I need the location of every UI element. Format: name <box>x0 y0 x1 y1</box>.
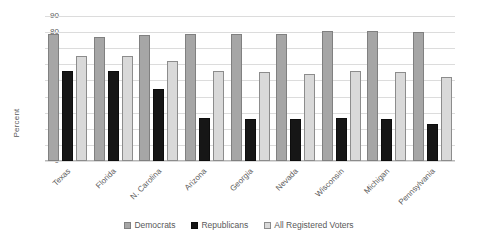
x-axis-tick-slot: N. Carolina <box>136 163 182 215</box>
legend-label: Republicans <box>201 220 248 230</box>
bar-group <box>273 16 319 161</box>
bar-republicans[interactable] <box>108 71 119 161</box>
bar-republicans[interactable] <box>336 118 347 162</box>
bar-groups <box>45 16 455 161</box>
bar-republicans[interactable] <box>381 119 392 161</box>
bar-group <box>318 16 364 161</box>
bar-all-registered-voters[interactable] <box>122 56 133 161</box>
x-axis-tick-label: Arizona <box>184 167 209 192</box>
bar-democrats[interactable] <box>322 31 333 162</box>
bar-group <box>45 16 91 161</box>
bar-democrats[interactable] <box>231 34 242 161</box>
gridline <box>45 161 455 162</box>
bar-all-registered-voters[interactable] <box>259 72 270 161</box>
x-axis-tick-labels: TexasFloridaN. CarolinaArizonaGeorgiaNev… <box>45 163 455 215</box>
x-axis-tick-slot: Georgia <box>227 163 273 215</box>
bar-all-registered-voters[interactable] <box>395 72 406 161</box>
bar-republicans[interactable] <box>290 119 301 161</box>
x-axis-tick-label: Georgia <box>228 167 254 193</box>
bar-democrats[interactable] <box>276 34 287 161</box>
legend-swatch-icon <box>191 222 198 229</box>
bar-all-registered-voters[interactable] <box>213 71 224 161</box>
bar-group <box>91 16 137 161</box>
bar-all-registered-voters[interactable] <box>76 56 87 161</box>
legend-item[interactable]: Democrats <box>124 220 175 230</box>
bar-all-registered-voters[interactable] <box>304 74 315 161</box>
bar-democrats[interactable] <box>367 31 378 162</box>
bar-group <box>136 16 182 161</box>
bar-republicans[interactable] <box>245 119 256 161</box>
x-axis-tick-slot: Wisconsin <box>318 163 364 215</box>
chart-legend: DemocratsRepublicansAll Registered Voter… <box>0 220 478 230</box>
x-axis-tick-label: Wisconsin <box>314 167 345 198</box>
x-axis-tick-slot: Nevada <box>273 163 319 215</box>
plot-area <box>45 16 455 161</box>
legend-item[interactable]: Republicans <box>191 220 248 230</box>
x-axis-tick-slot: Florida <box>91 163 137 215</box>
bar-all-registered-voters[interactable] <box>350 71 361 161</box>
bar-group <box>364 16 410 161</box>
bar-republicans[interactable] <box>199 118 210 162</box>
bar-republicans[interactable] <box>62 71 73 161</box>
bar-group <box>182 16 228 161</box>
bar-chart: Percent 9080706050403020100 TexasFlorida… <box>0 0 478 246</box>
x-axis-tick-label: Michigan <box>363 167 391 195</box>
bar-group <box>227 16 273 161</box>
x-axis-tick-label: Texas <box>52 167 72 187</box>
bar-all-registered-voters[interactable] <box>441 77 452 161</box>
bar-republicans[interactable] <box>153 89 164 162</box>
bar-democrats[interactable] <box>48 34 59 161</box>
legend-label: All Registered Voters <box>274 220 353 230</box>
legend-swatch-icon <box>264 222 271 229</box>
x-axis-tick-label: Florida <box>95 167 118 190</box>
legend-swatch-icon <box>124 222 131 229</box>
y-axis-title: Percent <box>12 109 21 138</box>
x-axis-tick-slot: Pennsylvania <box>410 163 456 215</box>
x-axis-tick-slot: Texas <box>45 163 91 215</box>
bar-republicans[interactable] <box>427 124 438 161</box>
bar-all-registered-voters[interactable] <box>167 61 178 161</box>
x-axis-tick-slot: Arizona <box>182 163 228 215</box>
legend-label: Democrats <box>134 220 175 230</box>
legend-item[interactable]: All Registered Voters <box>264 220 353 230</box>
bar-democrats[interactable] <box>139 35 150 161</box>
bar-democrats[interactable] <box>413 32 424 161</box>
x-axis-tick-label: Nevada <box>275 167 300 192</box>
bar-democrats[interactable] <box>94 37 105 161</box>
bar-group <box>410 16 456 161</box>
bar-democrats[interactable] <box>185 34 196 161</box>
